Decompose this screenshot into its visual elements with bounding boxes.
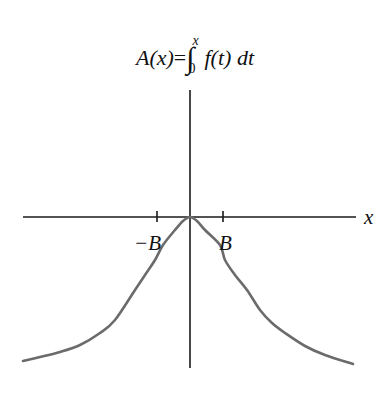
tick-label-neg-b: −B <box>134 231 161 256</box>
plot-area <box>0 0 390 393</box>
function-curve <box>23 217 353 364</box>
tick-label-pos-b: B <box>219 231 232 256</box>
x-axis-label: x <box>364 205 373 230</box>
integral-function-diagram: A(x)=∫x0f(t) dt x −B B <box>0 0 390 393</box>
